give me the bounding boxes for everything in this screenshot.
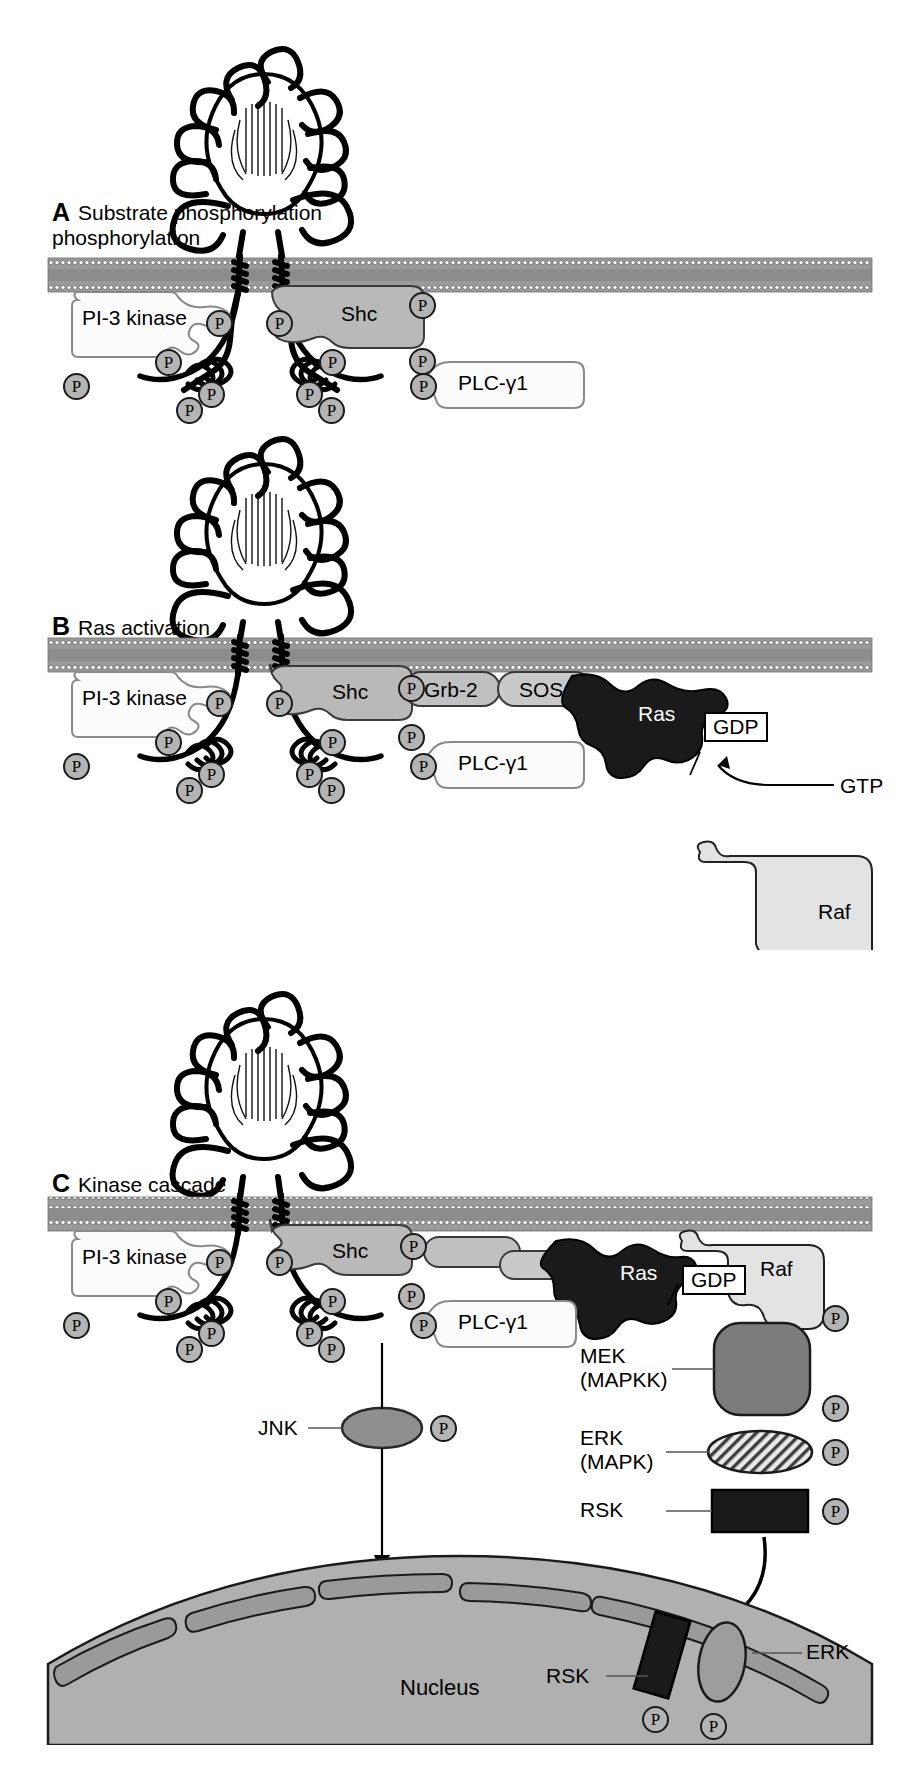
- phospho-tag: P: [398, 1283, 425, 1310]
- ras-label: Ras: [620, 1261, 657, 1285]
- plc-gamma1-label: PLC-γ1: [458, 1310, 528, 1334]
- phospho-tag: P: [155, 1288, 182, 1315]
- mek-alias-label: (MAPKK): [580, 1369, 668, 1392]
- jnk-shape: [342, 1408, 422, 1448]
- phospho-tag: P: [318, 777, 345, 804]
- phospho-tag: P: [266, 690, 293, 717]
- mek-label: MEK: [580, 1345, 626, 1368]
- grb2-label: Grb-2: [424, 678, 478, 702]
- phospho-tag: P: [318, 1336, 345, 1363]
- phospho-tag: P: [63, 753, 90, 780]
- panel-a-title-line2: phosphorylation: [52, 226, 200, 250]
- panel-c-graphics: [0, 965, 920, 1745]
- figure-canvas: A Substrate phosphorylation phosphorylat…: [0, 0, 920, 1784]
- gtp-arrow-line: [718, 765, 834, 785]
- panel-a-title: Substrate phosphorylation: [78, 201, 322, 225]
- raf-label: Raf: [760, 1257, 793, 1281]
- phospho-tag: P: [206, 1249, 233, 1276]
- pi3-kinase-label: PI-3 kinase: [82, 686, 187, 710]
- panel-a-letter: A: [52, 198, 70, 227]
- phospho-tag: P: [155, 729, 182, 756]
- phospho-tag: P: [319, 349, 346, 376]
- rsk-label: RSK: [580, 1499, 623, 1522]
- phospho-tag: P: [319, 1288, 346, 1315]
- pi3-kinase-label: PI-3 kinase: [82, 306, 187, 330]
- receptor-core-filaments: [231, 491, 296, 570]
- plasma-membrane: [48, 258, 872, 292]
- rsk-shape: [712, 1490, 808, 1532]
- ras-label: Ras: [638, 702, 675, 726]
- jnk-label: JNK: [258, 1417, 298, 1440]
- phospho-tag: P: [176, 1336, 203, 1363]
- phospho-tag: P: [410, 753, 437, 780]
- phospho-tag: P: [155, 349, 182, 376]
- receptor-core-filaments: [231, 1046, 296, 1125]
- panel-c-title: Kinase cascade: [78, 1173, 226, 1197]
- phospho-tag: P: [63, 1312, 90, 1339]
- gtp-label: GTP: [840, 774, 883, 798]
- shc-label: Shc: [332, 680, 368, 704]
- panel-b: B Ras activation PI-3 kinase Shc Grb-2 S…: [0, 390, 920, 950]
- raf-label: Raf: [818, 900, 851, 924]
- phospho-tag: P: [266, 310, 293, 337]
- phospho-tag: P: [398, 724, 425, 751]
- receptor-core-filaments: [231, 101, 296, 180]
- phospho-tag: P: [198, 761, 225, 788]
- erk-shape: [708, 1431, 812, 1473]
- phospho-tag-rsk: P: [822, 1498, 849, 1525]
- shc-label: Shc: [332, 1239, 368, 1263]
- erk-label: ERK: [580, 1427, 623, 1450]
- gdp-box: GDP: [682, 1265, 746, 1295]
- phospho-tag: P: [400, 1233, 427, 1260]
- rsk-nuclear-label: RSK: [546, 1665, 589, 1688]
- sos-label: SOS: [519, 678, 563, 702]
- phospho-tag: P: [206, 690, 233, 717]
- raf-shape: [698, 842, 872, 950]
- panel-b-letter: B: [52, 612, 70, 641]
- phospho-tag: P: [176, 777, 203, 804]
- plasma-membrane: [48, 638, 872, 672]
- phospho-tag: P: [410, 1312, 437, 1339]
- panel-c-letter: C: [52, 1169, 70, 1198]
- nucleus-label: Nucleus: [400, 1675, 479, 1701]
- panel-b-title: Ras activation: [78, 616, 210, 640]
- phospho-tag-rsk-nuclear: P: [642, 1706, 669, 1733]
- panel-c: C Kinase cascade PI-3 kinase Shc Ras PLC…: [0, 965, 920, 1745]
- phospho-tag: P: [266, 1249, 293, 1276]
- phospho-tag-mek-2: P: [822, 1395, 849, 1422]
- phospho-tag: P: [198, 1320, 225, 1347]
- phospho-tag-mek-1: P: [822, 1305, 849, 1332]
- phospho-tag: P: [206, 310, 233, 337]
- pi3-kinase-label: PI-3 kinase: [82, 1245, 187, 1269]
- phospho-tag-jnk: P: [430, 1415, 457, 1442]
- plasma-membrane: [48, 1197, 872, 1231]
- plc-gamma1-label: PLC-γ1: [458, 751, 528, 775]
- panel-b-graphics: [0, 390, 920, 950]
- erk-nuclear-label: ERK: [806, 1641, 849, 1664]
- shc-label: Shc: [341, 302, 377, 326]
- phospho-tag: P: [409, 292, 436, 319]
- ras-shape: [562, 674, 727, 778]
- phospho-tag: P: [398, 675, 425, 702]
- mek-shape: [714, 1323, 810, 1415]
- phospho-tag-erk-nuclear: P: [700, 1713, 727, 1740]
- gdp-box: GDP: [704, 712, 768, 742]
- phospho-tag: P: [319, 729, 346, 756]
- phospho-tag: P: [409, 348, 436, 375]
- erk-alias-label: (MAPK): [580, 1451, 654, 1474]
- phospho-tag-erk: P: [822, 1439, 849, 1466]
